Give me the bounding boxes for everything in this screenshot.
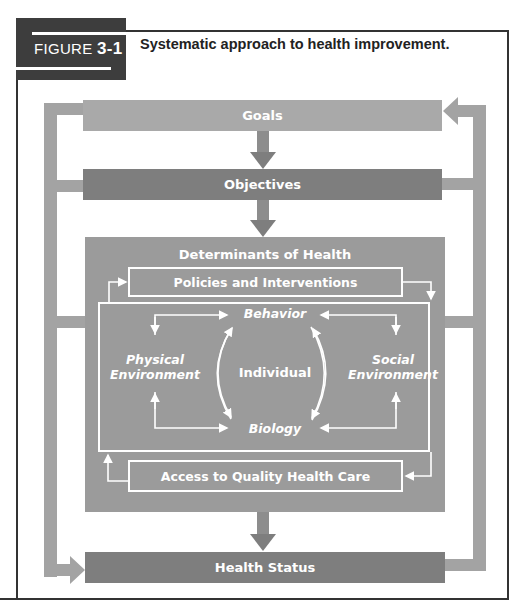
label-bottom-rule (16, 67, 111, 70)
individual-label: Individual (225, 365, 325, 380)
right-loop-determinants (445, 316, 486, 328)
frame-left (16, 80, 18, 600)
goals-bar: Goals (83, 100, 442, 131)
objectives-bar: Objectives (83, 169, 442, 200)
frame-right (507, 30, 509, 600)
frame-bottom (0, 598, 509, 600)
left-loop-determinants (44, 316, 86, 328)
arrow-down-icon (250, 220, 276, 237)
right-loop-vertical (473, 105, 486, 571)
arrow-down-icon (250, 534, 276, 551)
behavior-label: Behavior (230, 306, 320, 321)
left-loop-top (44, 103, 84, 115)
left-loop-objectives (44, 180, 84, 192)
arrow-right-into-health-status-icon (70, 556, 86, 584)
right-loop-bottom (445, 559, 486, 571)
biology-label: Biology (230, 421, 320, 436)
right-loop-objectives (442, 178, 486, 190)
figure-caption: Systematic approach to health improvemen… (140, 36, 449, 52)
physical-environment-label: Physical Environment (105, 352, 205, 382)
right-loop-top (455, 105, 486, 117)
determinants-box: Determinants of Health Policies and Inte… (85, 237, 445, 512)
label-top-rule (32, 32, 126, 35)
figure-label: FIGURE 3-1 (16, 18, 126, 80)
figure-number: FIGURE 3-1 (34, 39, 122, 59)
left-loop-vertical (44, 103, 57, 577)
frame-top (126, 30, 509, 32)
arrow-down-icon (250, 152, 276, 169)
social-environment-label: Social Environment (343, 352, 443, 382)
health-status-bar: Health Status (85, 552, 445, 583)
left-loop-bottom (44, 564, 72, 576)
arrow-left-into-goals-icon (443, 97, 459, 125)
